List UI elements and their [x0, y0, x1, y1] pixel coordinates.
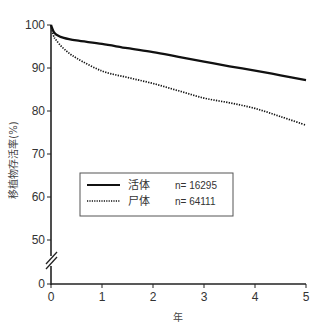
series-line-living [51, 25, 306, 80]
x-tick-label: 5 [303, 290, 310, 304]
survival-chart: 05060708090100 012345 移植物存活率(%) 年 活体 n= … [0, 0, 322, 330]
legend: 活体 n= 16295 尸体 n= 64111 [80, 173, 233, 216]
y-tick-label: 90 [32, 61, 46, 75]
series-group [51, 25, 306, 125]
legend-n-deceased: n= 64111 [175, 196, 216, 207]
x-tick-label: 3 [201, 290, 208, 304]
x-tick-label: 4 [252, 290, 259, 304]
x-tick-label: 0 [48, 290, 55, 304]
y-tick-label: 60 [32, 190, 46, 204]
y-tick-label: 100 [25, 18, 45, 32]
y-tick-label: 80 [32, 104, 46, 118]
x-axis: 012345 [48, 284, 310, 304]
legend-label-living: 活体 [128, 178, 150, 192]
legend-n-living: n= 16295 [175, 180, 217, 191]
legend-label-deceased: 尸体 [128, 194, 150, 208]
y-tick-label: 50 [32, 233, 46, 247]
y-tick-label: 70 [32, 147, 46, 161]
x-tick-label: 2 [150, 290, 157, 304]
x-tick-label: 1 [99, 290, 106, 304]
y-axis-title: 移植物存活率(%) [7, 121, 19, 198]
y-axis: 05060708090100 [25, 18, 57, 291]
y-tick-label: 0 [38, 277, 45, 291]
series-line-deceased [51, 25, 306, 125]
x-axis-title: 年 [173, 311, 183, 323]
